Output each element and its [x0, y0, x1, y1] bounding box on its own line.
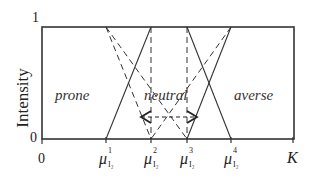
y-axis-title: Intensity — [13, 68, 32, 128]
x-tick-mu1: μ 1 I₂ — [98, 146, 114, 169]
dashed-membership-lines — [106, 27, 231, 139]
neutral-range-arrow — [141, 111, 197, 123]
region-label-neutral: neutral — [144, 87, 187, 103]
membership-function-diagram: 1 0 Intensity 0 μ 1 I₂ μ 2 I₂ μ 3 I₂ μ 4… — [0, 0, 315, 179]
svg-text:4: 4 — [233, 146, 237, 155]
x-tick-mu2: μ 2 I₂ — [143, 146, 159, 169]
svg-text:μ: μ — [143, 150, 152, 168]
solid-membership-lines — [106, 27, 231, 139]
svg-text:μ: μ — [98, 150, 107, 168]
svg-text:μ: μ — [223, 150, 232, 168]
region-label-averse: averse — [234, 87, 273, 103]
x-tick-mu4: μ 4 I₂ — [223, 146, 239, 169]
svg-text:I₂: I₂ — [233, 160, 239, 169]
x-origin-label: 0 — [38, 151, 45, 166]
x-tick-mu3: μ 3 I₂ — [179, 146, 195, 169]
svg-text:I₂: I₂ — [108, 160, 114, 169]
plot-frame — [42, 27, 294, 139]
svg-text:I₂: I₂ — [153, 160, 159, 169]
svg-text:μ: μ — [179, 150, 188, 168]
svg-text:3: 3 — [189, 146, 193, 155]
y-tick-1: 1 — [32, 10, 39, 25]
x-tick-marks — [42, 137, 293, 144]
svg-text:I₂: I₂ — [189, 160, 195, 169]
region-label-prone: prone — [54, 87, 90, 103]
svg-text:2: 2 — [153, 146, 157, 155]
svg-text:1: 1 — [108, 146, 112, 155]
x-axis-end-label: K — [286, 149, 299, 166]
y-tick-0: 0 — [30, 130, 37, 145]
